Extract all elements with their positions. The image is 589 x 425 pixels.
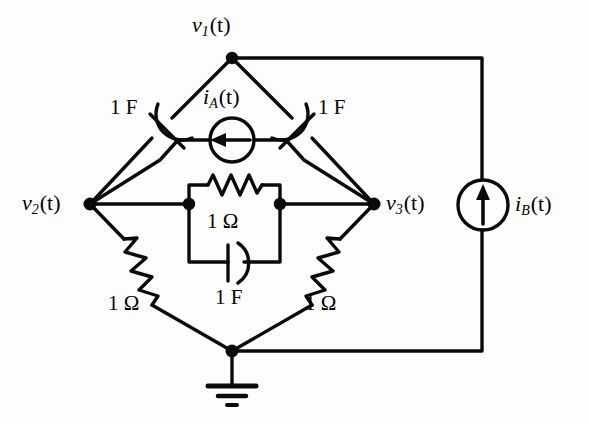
component-label-capacitor-center: 1 F (215, 287, 242, 308)
current-source-ib-arrow-head (476, 184, 490, 200)
node-label-v1-subscript: 1 (202, 24, 209, 39)
circuit-diagram-canvas: v1(t) v2(t) v3(t) iA(t) iB(t) 1 F 1 F 1 … (0, 0, 589, 425)
current-source-ia-arrow-head (210, 133, 226, 147)
wire-ia-right-to-v3 (254, 140, 374, 204)
capacitor-right-plate-curved (272, 104, 308, 140)
junction-dot-ground (226, 345, 239, 358)
component-label-resistor-center: 1 Ω (207, 211, 238, 232)
source-label-ib: iB(t) (515, 193, 551, 218)
junction-dot-v3 (368, 198, 381, 211)
capacitor-left-plate-curved (156, 104, 192, 140)
component-label-capacitor-left: 1 F (110, 97, 137, 118)
source-label-ia-argument: (t) (218, 84, 240, 109)
node-label-v2-subscript: 2 (32, 202, 39, 217)
source-label-ia: iA(t) (203, 86, 239, 111)
wire-center-bottom-right (244, 204, 280, 262)
component-label-resistor-bottom-right: 1 Ω (305, 293, 336, 314)
component-label-capacitor-right: 1 F (318, 97, 345, 118)
wire-resistor-right-to-ground (232, 305, 312, 351)
junction-dot-center-left (183, 198, 195, 210)
wire-resistor-left-to-ground (152, 305, 232, 351)
wire-v2-to-resistor-left (90, 204, 124, 239)
node-label-v1: v1(t) (192, 14, 231, 39)
wire-ia-left-to-v2 (90, 140, 210, 204)
junction-dot-v1 (226, 52, 238, 64)
node-label-v2: v2(t) (22, 192, 61, 217)
node-label-v2-argument: (t) (39, 190, 61, 215)
node-label-v3-symbol: v (386, 190, 396, 215)
junction-dot-center-right (274, 198, 286, 210)
node-label-v1-symbol: v (192, 12, 202, 37)
node-label-v3: v3(t) (386, 192, 425, 217)
source-label-ib-subscript: B (521, 203, 530, 218)
resistor-center-zigzag (208, 175, 262, 195)
circuit-schematic-svg (0, 0, 589, 425)
node-label-v1-argument: (t) (209, 12, 231, 37)
junction-dot-v2 (84, 198, 97, 211)
source-label-ia-subscript: A (209, 96, 218, 111)
node-label-v3-argument: (t) (403, 190, 425, 215)
node-label-v2-symbol: v (22, 190, 32, 215)
wire-v1-to-cap-right (232, 58, 292, 118)
node-label-v3-subscript: 3 (396, 202, 403, 217)
wire-v3-to-resistor-right (340, 204, 374, 239)
source-label-ib-argument: (t) (530, 191, 552, 216)
wire-v1-to-ib-top (232, 58, 482, 180)
wire-ib-to-ground (232, 230, 482, 351)
component-label-resistor-bottom-left: 1 Ω (108, 293, 139, 314)
